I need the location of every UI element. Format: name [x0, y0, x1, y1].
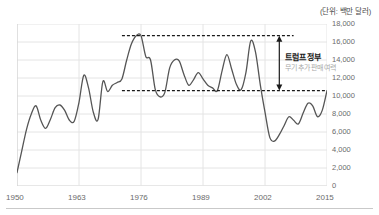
annotation-title: 트럼프 정부	[285, 51, 320, 62]
y-axis-tick-label: 12,000	[332, 73, 355, 82]
x-axis-tick-label: 1989	[192, 193, 210, 202]
y-axis-tick-label: 2,000	[332, 163, 351, 172]
x-axis-tick-label: 1950	[6, 193, 24, 202]
y-axis-tick-label: 8,000	[332, 109, 351, 118]
y-axis-tick-label: 10,000	[332, 91, 355, 100]
plot-area	[17, 24, 327, 186]
gap-arrow	[276, 36, 282, 91]
x-axis-tick-label: 2015	[316, 193, 334, 202]
y-axis-tick-label: 16,000	[332, 37, 355, 46]
bottom-divider	[6, 208, 373, 209]
annotation-subtitle: 무기 추가 판매 여력	[285, 62, 336, 72]
y-axis-tick-label: 0	[332, 181, 336, 190]
data-line-series	[17, 34, 327, 173]
chart-svg	[17, 24, 327, 186]
x-axis-tick-label: 1963	[68, 193, 86, 202]
x-axis-tick-label: 2002	[254, 193, 272, 202]
y-axis-tick-label: 18,000	[332, 19, 355, 28]
unit-label: (단위: 백만 달러)	[320, 5, 371, 16]
y-axis-tick-label: 6,000	[332, 127, 351, 136]
chart-container: (단위: 백만 달러) 02,0004,0006,0008,00010,0001…	[0, 0, 379, 215]
x-axis-tick-label: 1976	[130, 193, 148, 202]
y-axis-tick-label: 4,000	[332, 145, 351, 154]
